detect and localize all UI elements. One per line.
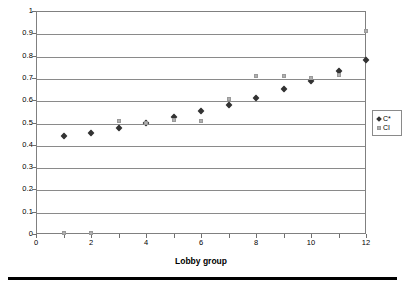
x-axis-tick-label: 10 xyxy=(299,239,323,247)
y-axis-tick-label: 0.3 xyxy=(3,163,33,171)
y-axis-tick-mark xyxy=(32,167,36,168)
y-axis-tick-label: 0.8 xyxy=(3,52,33,60)
y-axis-tick-mark xyxy=(32,11,36,12)
x-axis-tick-mark xyxy=(339,234,340,238)
x-axis-tick-mark xyxy=(256,234,257,238)
legend-item[interactable]: CI xyxy=(376,123,399,132)
x-axis-tick-mark xyxy=(91,234,92,238)
x-axis-tick-label: 8 xyxy=(244,239,268,247)
x-axis-tick-label: 0 xyxy=(24,239,48,247)
x-axis-tick-mark xyxy=(64,234,65,238)
y-axis-tick-mark xyxy=(32,78,36,79)
gridline-horizontal xyxy=(37,79,365,80)
x-axis-tick-mark xyxy=(201,234,202,238)
gridline-horizontal xyxy=(37,168,365,169)
bottom-divider xyxy=(8,277,397,280)
chart-legend: C* CI xyxy=(372,110,402,136)
chart-figure: 00.10.20.30.40.50.60.70.80.91 024681012 … xyxy=(0,0,407,288)
gridline-horizontal xyxy=(37,57,365,58)
y-axis-tick-mark xyxy=(32,100,36,101)
y-axis-tick-mark xyxy=(32,56,36,57)
gridline-horizontal xyxy=(37,146,365,147)
legend-item[interactable]: C* xyxy=(376,114,399,123)
legend-marker-square-icon xyxy=(376,125,381,130)
y-axis-tick-mark xyxy=(32,123,36,124)
legend-marker-diamond-icon xyxy=(376,116,381,121)
x-axis-tick-mark xyxy=(284,234,285,238)
x-axis-tick-mark xyxy=(229,234,230,238)
x-axis-tick-mark xyxy=(311,234,312,238)
x-axis-tick-mark xyxy=(146,234,147,238)
y-axis-tick-label: 0.9 xyxy=(3,29,33,37)
y-axis-tick-label: 0.6 xyxy=(3,96,33,104)
y-axis-tick-label: 0.4 xyxy=(3,141,33,149)
y-axis-tick-mark xyxy=(32,145,36,146)
y-axis-tick-mark xyxy=(32,33,36,34)
y-axis-tick-label: 0 xyxy=(3,230,33,238)
y-axis-tick-label: 0.5 xyxy=(3,119,33,127)
gridline-horizontal xyxy=(37,213,365,214)
y-axis-tick-mark xyxy=(32,189,36,190)
y-axis-tick-label: 0.7 xyxy=(3,74,33,82)
x-axis-tick-mark xyxy=(174,234,175,238)
y-axis-tick-label: 0.1 xyxy=(3,208,33,216)
x-axis-tick-label: 6 xyxy=(189,239,213,247)
legend-label: C* xyxy=(383,115,391,123)
x-axis-tick-mark xyxy=(36,234,37,238)
y-axis-tick-label: 1 xyxy=(3,7,33,15)
x-axis-tick-label: 12 xyxy=(354,239,378,247)
gridline-horizontal xyxy=(37,34,365,35)
y-axis-tick-mark xyxy=(32,212,36,213)
x-axis-tick-mark xyxy=(366,234,367,238)
gridline-horizontal xyxy=(37,101,365,102)
legend-label: CI xyxy=(383,124,390,132)
x-axis-tick-mark xyxy=(119,234,120,238)
x-axis-title: Lobby group xyxy=(36,256,366,266)
x-axis-tick-label: 2 xyxy=(79,239,103,247)
x-axis-tick-label: 4 xyxy=(134,239,158,247)
gridline-horizontal xyxy=(37,124,365,125)
plot-area xyxy=(36,11,366,234)
y-axis-tick-label: 0.2 xyxy=(3,185,33,193)
gridline-horizontal xyxy=(37,190,365,191)
